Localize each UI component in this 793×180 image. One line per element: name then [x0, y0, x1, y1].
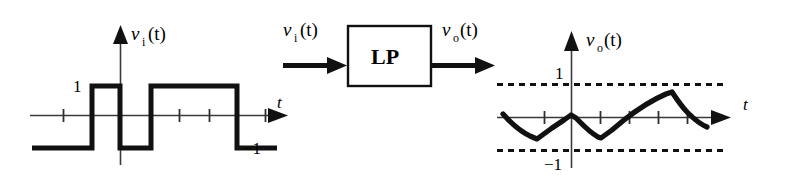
figure-canvas: v i (t) t 1 −1 v i (t) LP v [0, 0, 793, 180]
input-x-axis-label: t [277, 93, 283, 112]
output-level-high-label: 1 [555, 64, 564, 83]
input-plot-y-axis-label: v i (t) [131, 23, 166, 49]
input-y-axis-arrowhead [113, 25, 128, 44]
block-input-signal-label: v i (t) [283, 19, 318, 45]
block-input-arrowhead [327, 57, 347, 74]
block-output-arrow [431, 57, 495, 74]
lp-filter-box-label: LP [371, 44, 399, 69]
input-square-waveform [32, 86, 277, 148]
output-plot-y-axis [564, 31, 579, 168]
input-level-high-label: 1 [73, 77, 82, 96]
output-filtered-waveform [503, 92, 707, 139]
output-y-label-base: v [586, 29, 595, 50]
block-input-label-base: v [283, 19, 292, 40]
block-output-label-arg: (t) [460, 19, 478, 41]
input-y-label-arg: (t) [148, 23, 166, 45]
input-level-low-label: −1 [243, 139, 261, 158]
output-y-label-sub: o [597, 41, 603, 55]
block-input-label-sub: i [294, 31, 298, 45]
output-plot-y-axis-label: v o (t) [586, 29, 622, 55]
output-x-axis-label: t [743, 95, 749, 114]
block-output-label-base: v [442, 19, 451, 40]
output-y-label-arg: (t) [604, 29, 622, 51]
input-plot: v i (t) t 1 −1 [30, 23, 288, 165]
block-output-arrowhead [475, 57, 495, 74]
input-y-label-base: v [131, 23, 140, 44]
output-plot: v o (t) t 1 −1 [497, 29, 749, 174]
block-output-signal-label: v o (t) [442, 19, 478, 45]
output-y-axis-arrowhead [564, 31, 579, 51]
output-x-axis-arrowhead [711, 110, 731, 125]
output-level-low-label: −1 [544, 155, 562, 174]
block-input-arrow [283, 57, 347, 74]
block-output-label-sub: o [453, 31, 459, 45]
filter-block-diagram: v i (t) LP v o (t) [283, 19, 495, 86]
input-plot-x-axis [30, 108, 288, 123]
block-input-label-arg: (t) [300, 19, 318, 41]
input-y-label-sub: i [142, 35, 146, 49]
